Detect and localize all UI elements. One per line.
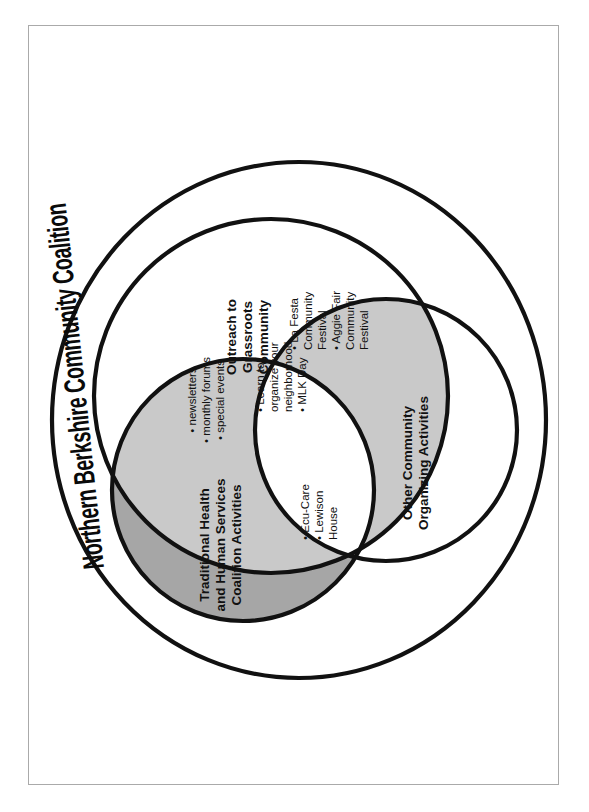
bullet-monthly-forums: • monthly forums xyxy=(200,357,212,443)
label-other-line-1: Other Community xyxy=(400,406,415,520)
bullet-special-events: • special events xyxy=(214,360,226,440)
bullet-aggie-fair-line-1: • Aggie Fair xyxy=(330,291,342,350)
bullet-ecu-care: • Ecu-Care xyxy=(299,484,311,540)
label-outreach-line-1: Outreach to xyxy=(224,299,239,375)
bullet-aggie-fair-line-2: Community xyxy=(344,292,356,350)
diagram-title: Northern Berkshire Community Coalition xyxy=(39,202,110,571)
bullet-learn-line-3: neighborhood xyxy=(282,342,294,412)
bullet-lewison-line-2: House xyxy=(327,507,339,540)
label-traditional-line-3: Coalition Activities xyxy=(229,484,244,605)
bullets-outreach-traditional: • newsletters • monthly forums • special… xyxy=(186,357,226,443)
label-outreach-line-2: Grassroots xyxy=(240,301,255,373)
diagram-title-text: Northern Berkshire Community Coalition xyxy=(39,202,110,571)
bullet-learn-line-2: organize your xyxy=(268,342,280,412)
bullet-la-festa-line-2: Community xyxy=(302,292,314,350)
label-traditional-line-2: and Human Services xyxy=(213,479,228,612)
bullet-newsletters: • newsletters xyxy=(186,367,198,433)
label-traditional: Traditional Health and Human Services Co… xyxy=(197,479,244,612)
venn-diagram: Northern Berkshire Community Coalition O… xyxy=(0,0,589,812)
bullet-aggie-fair-line-3: Festival xyxy=(358,310,370,350)
bullet-la-festa-line-3: Festival xyxy=(316,310,328,350)
bullet-mlk-day: • MLK Day xyxy=(296,357,308,412)
label-traditional-line-1: Traditional Health xyxy=(197,488,212,601)
label-other: Other Community Organizing Activities xyxy=(400,396,431,530)
bullet-lewison-line-1: • Lewison xyxy=(313,491,325,540)
label-other-line-2: Organizing Activities xyxy=(416,396,431,530)
page-canvas: Northern Berkshire Community Coalition O… xyxy=(0,0,589,812)
bullet-learn-line-1: • Learn to xyxy=(254,363,266,412)
bullet-la-festa-line-1: • La Festa xyxy=(288,297,300,350)
